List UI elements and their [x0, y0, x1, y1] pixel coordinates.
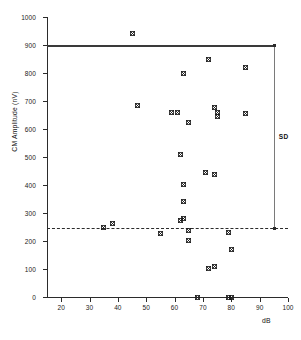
data-point — [110, 221, 115, 226]
plot-area — [47, 17, 288, 297]
y-tick-label: 200 — [2, 238, 36, 245]
x-tick-label: 70 — [193, 304, 213, 312]
data-point — [212, 172, 217, 177]
dashed-reference-line-245 — [47, 228, 288, 229]
data-point — [181, 182, 186, 187]
y-tick-label: 300 — [2, 210, 36, 217]
data-point — [181, 199, 186, 204]
data-point — [178, 218, 183, 223]
data-point — [206, 266, 211, 271]
data-point — [243, 65, 248, 70]
y-axis-title: CM Amplitude (nV) — [11, 62, 18, 182]
x-axis-line — [47, 297, 288, 298]
y-tick-label: 900 — [2, 42, 36, 49]
y-tick — [43, 73, 48, 74]
figure-canvas: CM Amplitude (nV) dB 0100200300400500600… — [0, 0, 301, 340]
x-tick-label: 100 — [278, 304, 298, 312]
y-tick-label: 100 — [2, 266, 36, 273]
data-point — [229, 247, 234, 252]
x-tick-label: 40 — [108, 304, 128, 312]
solid-reference-line-900 — [47, 45, 274, 47]
data-point — [243, 111, 248, 116]
data-point — [186, 238, 191, 243]
y-tick-label: 500 — [2, 154, 36, 161]
sd-label: SD — [279, 133, 289, 140]
y-tick-label: 400 — [2, 182, 36, 189]
data-point — [169, 110, 174, 115]
x-tick-label: 20 — [51, 304, 71, 312]
x-tick — [146, 298, 147, 302]
x-tick — [203, 298, 204, 302]
x-tick-label: 80 — [221, 304, 241, 312]
data-point — [158, 231, 163, 236]
y-tick-label: 1000 — [2, 14, 36, 21]
y-tick — [43, 17, 48, 18]
x-tick — [90, 298, 91, 302]
sd-bracket-cap-bottom — [273, 227, 276, 230]
x-tick-label: 60 — [165, 304, 185, 312]
data-point — [130, 31, 135, 36]
y-tick — [43, 241, 48, 242]
x-tick — [118, 298, 119, 302]
y-tick-label: 600 — [2, 126, 36, 133]
y-tick — [43, 269, 48, 270]
data-point — [178, 152, 183, 157]
data-point — [226, 230, 231, 235]
x-tick — [61, 298, 62, 302]
data-point — [175, 110, 180, 115]
y-tick — [43, 297, 48, 298]
y-tick — [43, 129, 48, 130]
y-tick-label: 800 — [2, 70, 36, 77]
x-tick — [288, 298, 289, 302]
data-point — [135, 103, 140, 108]
x-axis-title: dB — [262, 317, 271, 324]
data-point — [206, 57, 211, 62]
y-tick-label: 0 — [2, 294, 36, 301]
x-tick — [175, 298, 176, 302]
y-tick — [43, 101, 48, 102]
data-point — [229, 295, 234, 300]
y-tick — [43, 213, 48, 214]
data-point — [186, 120, 191, 125]
data-point — [101, 225, 106, 230]
x-tick-label: 90 — [250, 304, 270, 312]
data-point — [203, 170, 208, 175]
sd-bracket-line — [274, 45, 275, 228]
data-point — [195, 295, 200, 300]
y-tick-label: 700 — [2, 98, 36, 105]
data-point — [212, 105, 217, 110]
data-point — [186, 228, 191, 233]
data-point — [215, 114, 220, 119]
x-tick-label: 30 — [80, 304, 100, 312]
y-tick — [43, 157, 48, 158]
x-tick-label: 50 — [136, 304, 156, 312]
data-point — [212, 264, 217, 269]
y-tick — [43, 185, 48, 186]
sd-bracket-cap-top — [273, 44, 276, 47]
data-point — [181, 71, 186, 76]
x-tick — [260, 298, 261, 302]
